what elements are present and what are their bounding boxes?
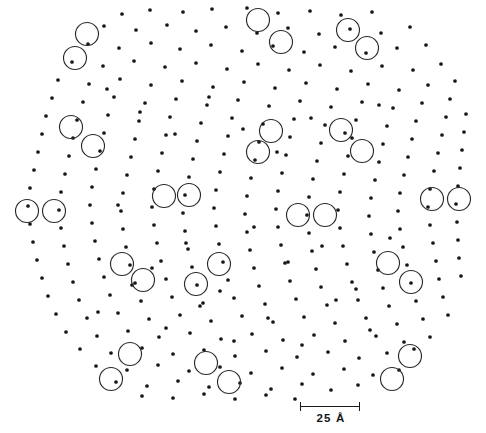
dot-marker [94,364,98,368]
dot-marker [264,349,268,353]
dot-marker [44,114,48,118]
dot-marker [132,59,136,63]
dot-marker [266,316,270,320]
dot-marker [398,227,402,231]
dot-marker [314,267,318,271]
circle-markers-layer [16,9,471,394]
dot-marker [119,209,123,213]
dot-marker [35,258,39,262]
dot-marker [149,83,153,87]
dot-marker [217,242,221,246]
dot-marker [59,226,63,230]
dot-marker [156,169,160,173]
dot-marker [214,224,218,228]
dot-marker [194,29,198,33]
dot-marker [242,80,246,84]
dot-marker [149,41,153,45]
dot-marker [319,285,323,289]
dot-marker [232,339,236,343]
dot-marker [181,211,185,215]
circle-marker [260,120,283,143]
dot-marker [309,116,313,120]
circle-marker [64,47,87,70]
dot-marker [377,103,381,107]
dot-marker [280,171,284,175]
circle-marker [448,188,471,211]
dot-marker [369,232,373,236]
dot-marker [354,118,358,122]
dot-marker [191,157,195,161]
dot-markers-layer [26,6,468,401]
dot-marker [241,127,245,131]
dot-marker [36,150,40,154]
dot-marker [354,287,358,291]
dot-marker [295,355,299,359]
dot-marker [102,24,106,28]
circle-marker [16,200,39,223]
dot-marker [464,112,468,116]
dot-marker [253,158,257,162]
dot-marker [446,313,450,317]
dot-marker [195,139,199,143]
dot-marker [209,319,213,323]
dot-marker [329,388,333,392]
dot-marker [462,130,466,134]
dot-marker [90,185,94,189]
dot-marker [320,244,324,248]
dot-marker [350,280,354,284]
dot-marker [453,79,457,83]
dot-marker [323,123,327,127]
dot-marker [357,356,361,360]
circle-marker [351,140,374,163]
dot-marker [380,64,384,68]
dot-marker [318,63,322,67]
dot-marker [121,191,125,195]
dot-marker [274,207,278,211]
dot-marker [171,352,175,356]
dot-marker [232,296,236,300]
circle-marker [399,345,422,368]
dot-marker [410,137,414,141]
scale-bar-line [300,406,360,407]
dot-marker [346,154,350,158]
dot-marker [421,317,425,321]
dot-marker [312,333,316,337]
scale-bar-right-cap [359,402,360,411]
dot-marker [125,368,129,372]
dot-marker [348,27,352,31]
dot-marker [96,310,100,314]
dot-marker [252,225,256,229]
dot-marker [224,25,228,29]
circle-marker [119,343,142,366]
dot-marker [164,133,168,137]
dot-marker [249,371,253,375]
dot-marker [300,343,304,347]
dot-marker [178,313,182,317]
dot-marker [271,320,275,324]
dot-marker [124,245,128,249]
dot-marker [118,77,122,81]
dot-marker [112,95,116,99]
dot-marker [155,241,159,245]
dot-marker [85,316,89,320]
dot-marker [156,363,160,367]
dot-marker [302,50,306,54]
dot-marker [432,169,436,173]
dot-marker [236,98,240,102]
dot-marker [32,168,36,172]
dot-marker [311,372,315,376]
dot-marker [187,175,191,179]
dot-marker [370,10,374,14]
dot-marker [218,365,222,369]
dot-marker [248,248,252,252]
dot-marker [109,351,113,355]
dot-marker [395,322,399,326]
dot-marker [126,329,130,333]
dot-marker [273,86,277,90]
dot-marker [240,314,244,318]
dot-marker [276,189,280,193]
dot-marker [408,25,412,29]
dot-marker [233,397,237,401]
dot-marker [243,212,247,216]
dot-marker [26,204,30,208]
